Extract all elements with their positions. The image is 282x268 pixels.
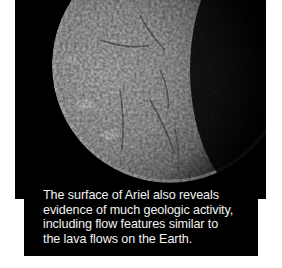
caption-line: The surface of Ariel also reveals bbox=[43, 188, 273, 203]
caption: The surface of Ariel also reveals eviden… bbox=[43, 188, 273, 246]
caption-line: including flow features similar to bbox=[43, 217, 273, 232]
caption-line: evidence of much geologic activity, bbox=[43, 203, 273, 218]
caption-line: the lava flows on the Earth. bbox=[43, 232, 273, 247]
page-margin bbox=[0, 0, 15, 6]
moon-photo bbox=[15, 0, 266, 199]
ariel-moon-image bbox=[15, 0, 266, 199]
